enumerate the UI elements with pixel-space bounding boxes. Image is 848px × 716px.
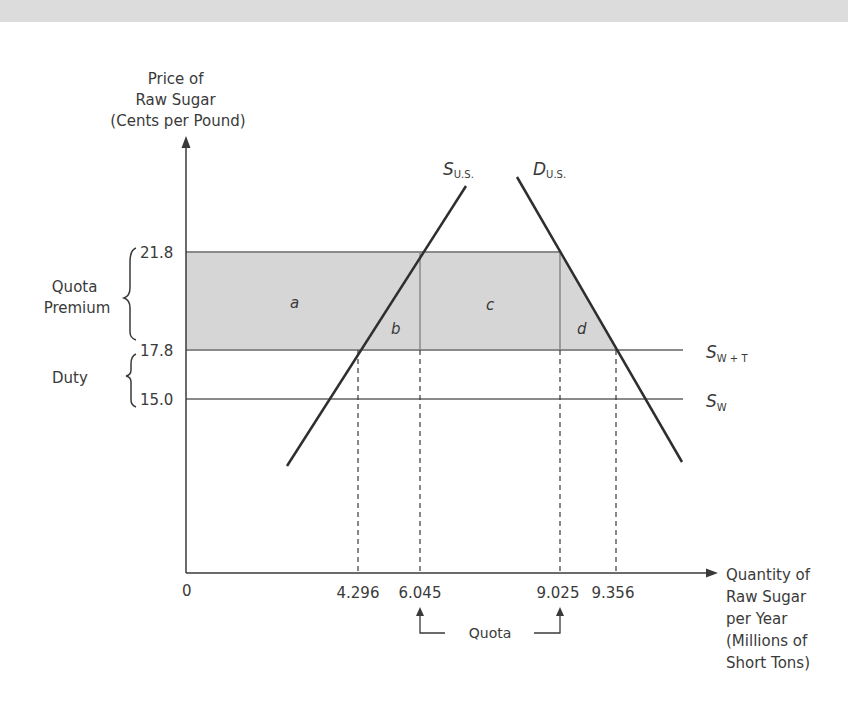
sw-plus-t-label: SW + T — [706, 342, 748, 364]
us-demand-label: DU.S. — [533, 159, 566, 180]
quota-label: Quota — [469, 625, 512, 641]
origin-label: 0 — [182, 582, 192, 600]
x-axis-label: Quantity of Raw Sugar per Year (Millions… — [726, 566, 815, 672]
area-b-label: b — [391, 320, 401, 338]
duty-label: Duty — [52, 369, 88, 387]
quota-arrow-right-icon — [556, 607, 564, 616]
area-d-label: d — [577, 320, 587, 338]
shaded-region — [186, 252, 616, 350]
quota-premium-brace — [124, 248, 136, 340]
duty-brace — [126, 354, 136, 407]
sugar-quota-chart: Price of Raw Sugar (Cents per Pound) 21.… — [0, 0, 848, 716]
y-axis-label: Price of Raw Sugar (Cents per Pound) — [110, 70, 245, 130]
x-tick-9-025: 9.025 — [537, 584, 580, 602]
x-tick-4-296: 4.296 — [337, 584, 380, 602]
sw-label: SW — [706, 391, 727, 413]
quota-premium-label: Quota Premium — [44, 278, 111, 317]
area-c-label: c — [486, 296, 495, 314]
area-a-label: a — [290, 294, 299, 312]
x-tick-6-045: 6.045 — [399, 584, 442, 602]
us-supply-label: SU.S. — [443, 159, 474, 180]
y-tick-21-8: 21.8 — [140, 244, 173, 262]
y-tick-15-0: 15.0 — [140, 391, 173, 409]
x-tick-9-356: 9.356 — [592, 584, 635, 602]
y-tick-17-8: 17.8 — [140, 342, 173, 360]
quota-arrow-left-icon — [416, 607, 424, 616]
